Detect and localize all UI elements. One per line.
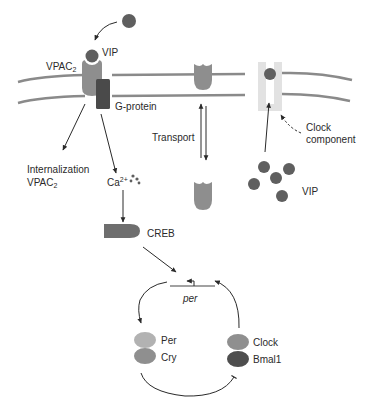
per-to-percry-arrow bbox=[139, 282, 167, 323]
creb-to-per-arrow bbox=[143, 247, 176, 272]
calcium-ions bbox=[130, 174, 141, 184]
vip-molecule-free bbox=[122, 14, 136, 28]
clock-component-label-1: Clock bbox=[306, 122, 332, 133]
creb-label: CREB bbox=[147, 228, 175, 239]
internalization-vpac2-label: VPAC2 bbox=[27, 177, 58, 189]
membrane-receptor-internalized bbox=[194, 182, 212, 210]
vip-signaling-diagram: VIP VPAC2 G-protein Internalization VPAC… bbox=[0, 0, 371, 409]
g-protein bbox=[96, 79, 110, 109]
clockbmal1-to-per-arrow bbox=[215, 281, 239, 328]
clock-component-arrow bbox=[281, 115, 301, 133]
per-protein bbox=[134, 332, 156, 348]
vpac2-label-top: VPAC2 bbox=[46, 61, 77, 73]
internalization-arrow bbox=[63, 104, 85, 150]
calcium-arrow bbox=[101, 114, 116, 173]
calcium-label: Ca2+ bbox=[107, 176, 128, 188]
g-protein-label: G-protein bbox=[115, 101, 157, 112]
vip-cluster bbox=[248, 161, 295, 202]
per-promoter-arrow bbox=[187, 281, 194, 286]
vip-molecule-bound bbox=[86, 50, 99, 63]
creb-protein bbox=[104, 224, 140, 238]
bmal1-protein bbox=[227, 351, 249, 367]
membrane-receptor-surface bbox=[194, 64, 212, 90]
vip-label-top: VIP bbox=[102, 47, 118, 58]
cell-membrane bbox=[18, 73, 352, 103]
transport-label: Transport bbox=[152, 132, 195, 143]
cry-label: Cry bbox=[161, 352, 177, 363]
internalization-label: Internalization bbox=[27, 164, 89, 175]
clock-protein bbox=[227, 334, 249, 350]
clock-label: Clock bbox=[253, 337, 279, 348]
vip-molecule-channel bbox=[264, 68, 276, 80]
cry-protein bbox=[134, 348, 156, 364]
vip-binding-arrow bbox=[95, 22, 117, 40]
per-gene-label: per bbox=[182, 293, 198, 304]
clock-component-label-2: component bbox=[306, 134, 356, 145]
vip-cluster-label: VIP bbox=[302, 186, 318, 197]
per-label: Per bbox=[161, 335, 177, 346]
percry-inhibits-clockbmal1 bbox=[141, 373, 234, 396]
bmal1-label: Bmal1 bbox=[253, 354, 282, 365]
